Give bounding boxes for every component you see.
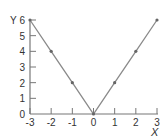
series-line	[30, 20, 157, 114]
data-point	[134, 50, 137, 53]
x-tick-label: 0	[91, 117, 97, 128]
x-tick-label: -2	[47, 117, 56, 128]
tick-marks	[30, 20, 157, 114]
data-point	[113, 81, 116, 84]
axes	[30, 20, 158, 114]
x-tick-label: 2	[133, 117, 139, 128]
y-tick-label: 5	[19, 31, 25, 42]
data-point	[28, 18, 31, 21]
x-tick-label: -1	[68, 117, 77, 128]
data-points	[28, 18, 158, 115]
data-point	[92, 112, 95, 115]
y-tick-label: 6	[19, 15, 25, 26]
data-point	[71, 81, 74, 84]
data-point	[50, 50, 53, 53]
x-tick-label: 1	[112, 117, 118, 128]
y-tick-label: 0	[19, 109, 25, 120]
x-tick-label: -3	[26, 117, 35, 128]
y-tick-label: 2	[19, 78, 25, 89]
y-tick-label: 4	[19, 46, 25, 57]
y-axis-label: Y	[10, 15, 17, 26]
y-tick-label: 1	[19, 93, 25, 104]
x-axis-label: X	[150, 126, 159, 138]
line-chart: -3-2-101230123456 Y X	[0, 0, 167, 139]
data-point	[155, 18, 158, 21]
y-tick-label: 3	[19, 62, 25, 73]
tick-labels: -3-2-101230123456	[19, 15, 160, 128]
